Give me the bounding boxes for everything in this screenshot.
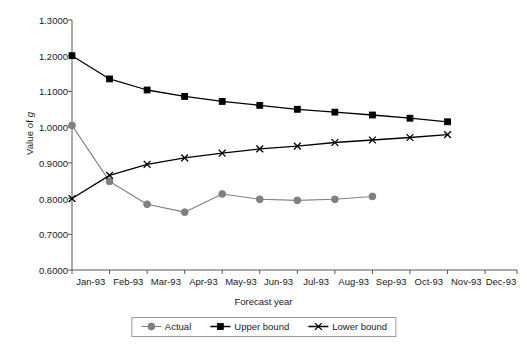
x-tick-label: Dec-93 <box>486 276 517 287</box>
y-tick-label: 1.0000 <box>22 122 68 133</box>
legend-marker-square-icon <box>209 321 231 332</box>
x-tick-label: Jun-93 <box>264 276 293 287</box>
y-tick-label: 0.7000 <box>22 229 68 240</box>
data-point-marker <box>217 324 223 330</box>
x-tick-label: Apr-93 <box>189 276 218 287</box>
legend-marker-circle-icon <box>140 321 162 332</box>
legend-item-label: Actual <box>165 321 191 332</box>
x-tick-label: Aug-93 <box>338 276 369 287</box>
legend-item-label: Upper bound <box>234 321 289 332</box>
x-tick-label: Jan-93 <box>76 276 105 287</box>
x-tick-label: May-93 <box>225 276 257 287</box>
x-tick-label: Feb-93 <box>113 276 143 287</box>
y-tick-label: 1.2000 <box>22 50 68 61</box>
x-tick-label: Oct-93 <box>414 276 443 287</box>
y-tick-label: 1.1000 <box>22 86 68 97</box>
x-tick-label: Sep-93 <box>376 276 407 287</box>
legend-item-upper-bound[interactable]: Upper bound <box>209 321 289 332</box>
x-tick-label: Nov-93 <box>451 276 482 287</box>
y-tick-label: 0.8000 <box>22 193 68 204</box>
x-axis-title: Forecast year <box>0 296 527 307</box>
y-tick-label: 0.6000 <box>22 265 68 276</box>
legend-item-actual[interactable]: Actual <box>140 321 191 332</box>
forecast-chart: Value of g 1.30001.20001.10001.00000.900… <box>0 0 527 353</box>
legend-marker-x-icon <box>307 321 329 332</box>
data-point-marker <box>147 323 154 330</box>
y-tick-label: 0.9000 <box>22 157 68 168</box>
legend-item-lower-bound[interactable]: Lower bound <box>307 321 387 332</box>
x-tick-label: Mar-93 <box>151 276 181 287</box>
x-tick-label: Jul-93 <box>303 276 329 287</box>
chart-legend: ActualUpper boundLower bound <box>131 317 396 337</box>
legend-item-label: Lower bound <box>332 321 387 332</box>
y-tick-label: 1.3000 <box>22 15 68 26</box>
